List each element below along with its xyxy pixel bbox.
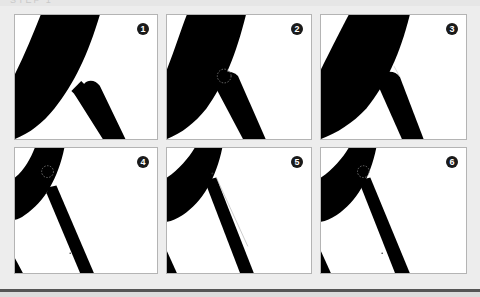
figure-panel-6: 6 xyxy=(320,147,467,274)
bottom-margin xyxy=(0,292,480,297)
figure-panel-1: 1 xyxy=(14,14,158,140)
figure-panel-4: 4 xyxy=(14,147,158,274)
step-number-badge: 6 xyxy=(446,156,458,168)
header-text: STEP 1 xyxy=(10,0,53,5)
letterform-shape xyxy=(15,148,157,273)
letterform-shape xyxy=(167,15,311,139)
step-number-badge: 3 xyxy=(446,23,458,35)
step-number-badge: 4 xyxy=(137,156,149,168)
letterform-shape xyxy=(167,148,311,273)
step-number-badge: 2 xyxy=(291,23,303,35)
header-strip: STEP 1 xyxy=(0,0,480,6)
step-number-badge: 5 xyxy=(291,156,303,168)
figure-panel-5: 5 xyxy=(166,147,312,274)
letterform-shape xyxy=(15,15,157,139)
figure-panel-3: 3 xyxy=(320,14,467,140)
figure-panel-2: 2 xyxy=(166,14,312,140)
letterform-shape xyxy=(321,15,466,139)
letterform-shape xyxy=(321,148,466,273)
step-number-badge: 1 xyxy=(137,23,149,35)
